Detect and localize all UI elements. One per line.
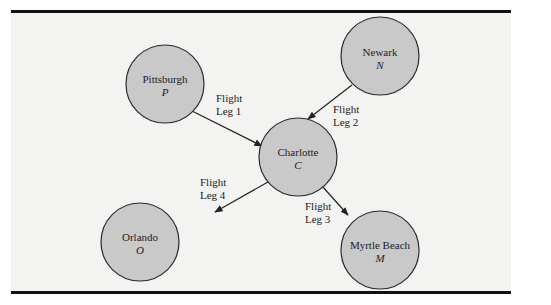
node-myrtle-beach: Myrtle Beach M	[341, 211, 419, 289]
edge-label-leg-1-line1: Flight	[216, 92, 242, 104]
node-pittsburgh: Pittsburgh P	[126, 45, 204, 123]
edge-leg-4: Flight Leg 4	[200, 176, 268, 212]
node-symbol: O	[136, 244, 144, 256]
node-name: Charlotte	[278, 146, 319, 158]
edge-label-leg-3-line1: Flight	[305, 200, 331, 212]
node-symbol: P	[161, 86, 169, 98]
node-name: Pittsburgh	[142, 73, 188, 85]
edge-label-leg-3-line2: Leg 3	[305, 213, 331, 225]
node-name: Orlando	[122, 231, 159, 243]
node-symbol: N	[375, 59, 384, 71]
node-symbol: C	[294, 159, 302, 171]
node-symbol: M	[374, 252, 385, 264]
edge-label-leg-1-line2: Leg 1	[216, 105, 241, 117]
edge-leg-1: Flight Leg 1	[192, 92, 262, 146]
node-orlando: Orlando O	[101, 203, 179, 281]
edge-label-leg-4-line2: Leg 4	[200, 189, 226, 201]
edge-leg-2: Flight Leg 2	[308, 85, 359, 128]
node-name: Newark	[363, 46, 398, 58]
node-newark: Newark N	[341, 17, 419, 95]
edge-label-leg-2-line2: Leg 2	[333, 116, 358, 128]
edge-label-leg-2-line1: Flight	[333, 103, 359, 115]
flight-network-diagram: Flight Leg 1 Flight Leg 2 Flight Leg 3 F…	[0, 0, 551, 305]
edge-label-leg-4-line1: Flight	[200, 176, 226, 188]
node-charlotte: Charlotte C	[259, 118, 337, 196]
node-name: Myrtle Beach	[350, 239, 411, 251]
